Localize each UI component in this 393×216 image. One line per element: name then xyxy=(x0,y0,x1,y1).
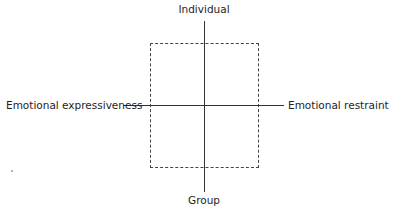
axis-label-emotional-restraint: Emotional restraint xyxy=(288,99,389,111)
artifact-dot xyxy=(11,170,13,172)
axis-label-emotional-expressiveness: Emotional expressiveness xyxy=(6,99,142,111)
horizontal-axis xyxy=(123,105,284,106)
vertical-axis xyxy=(204,21,205,192)
axis-label-individual: Individual xyxy=(0,3,393,15)
axis-label-group: Group xyxy=(0,194,393,206)
